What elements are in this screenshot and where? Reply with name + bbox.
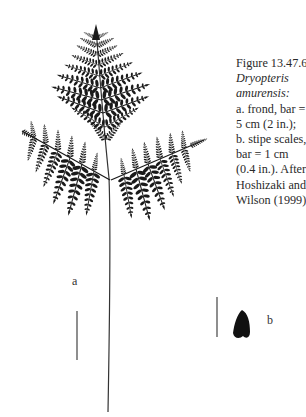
panel-label-a: a	[72, 274, 77, 289]
caption-line: Hoshizaki and	[236, 178, 306, 193]
frond-lower-left-pinna	[20, 120, 110, 218]
figure-caption: Figure 13.47.6. Dryopteris amurensis: a.…	[236, 56, 306, 208]
caption-line: Wilson (1999).	[236, 193, 306, 208]
caption-line: Figure 13.47.6.	[236, 56, 306, 71]
caption-line: 5 cm (2 in.);	[236, 117, 306, 132]
frond-lower-right-pinna	[111, 130, 209, 223]
panel-label-b: b	[267, 313, 273, 328]
caption-species-epithet: amurensis:	[236, 86, 306, 101]
caption-line: bar = 1 cm	[236, 147, 306, 162]
caption-line: (0.4 in.). After	[236, 162, 306, 177]
caption-line: b. stipe scales,	[236, 132, 306, 147]
caption-line: a. frond, bar =	[236, 102, 306, 117]
caption-species-genus: Dryopteris	[236, 71, 306, 86]
stipe-scale-b	[233, 310, 250, 338]
